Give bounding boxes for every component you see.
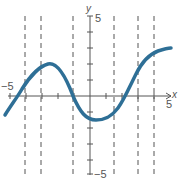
axes (8, 16, 171, 175)
chart-plot (0, 0, 181, 182)
y-min-label: −5 (94, 169, 107, 180)
x-min-label: −5 (1, 81, 14, 92)
y-max-label: 5 (95, 13, 101, 24)
x-axis-label: x (172, 90, 177, 100)
x-max-label: 5 (166, 99, 172, 110)
y-axis-label: y (86, 4, 91, 14)
function-curve (5, 48, 171, 120)
